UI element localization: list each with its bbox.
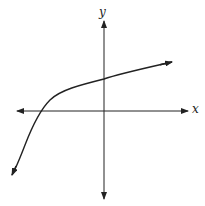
x-axis-label: x [192, 103, 199, 115]
graph-figure: y x [0, 0, 205, 206]
function-curve [12, 62, 172, 175]
graph-canvas [0, 0, 205, 206]
curve-arrow-right [160, 62, 172, 65]
curve-arrow-left [12, 166, 16, 175]
y-axis-label: y [99, 6, 106, 18]
